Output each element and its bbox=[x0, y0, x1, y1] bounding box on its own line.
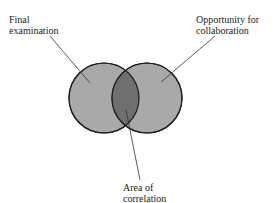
leader-line-right bbox=[161, 36, 215, 82]
leader-line-left bbox=[50, 36, 90, 83]
label-final-examination: Final examination bbox=[9, 14, 58, 36]
label-opportunity-for-collaboration: Opportunity for collaboration bbox=[196, 14, 259, 36]
label-area-of-correlation: Area of correlation bbox=[123, 182, 166, 203]
